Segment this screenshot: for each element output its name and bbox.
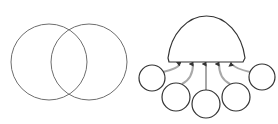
- node-circle-2: [162, 83, 190, 111]
- arrow-node-5-to-hub: [232, 64, 250, 72]
- venn-circle-right: [51, 24, 127, 100]
- arrow-node-4-to-hub: [219, 64, 230, 84]
- venn-diagram: [11, 24, 127, 100]
- hub-spoke-diagram: [139, 16, 275, 118]
- diagram-canvas: [0, 0, 278, 124]
- arrow-node-2-to-hub: [182, 64, 193, 84]
- node-circle-1: [139, 65, 165, 91]
- node-circle-5: [249, 64, 275, 90]
- node-circle-4: [222, 83, 250, 111]
- hub-dome: [168, 16, 245, 62]
- node-circle-3: [192, 90, 220, 118]
- venn-circle-left: [11, 24, 87, 100]
- arrow-node-1-to-hub: [163, 64, 180, 72]
